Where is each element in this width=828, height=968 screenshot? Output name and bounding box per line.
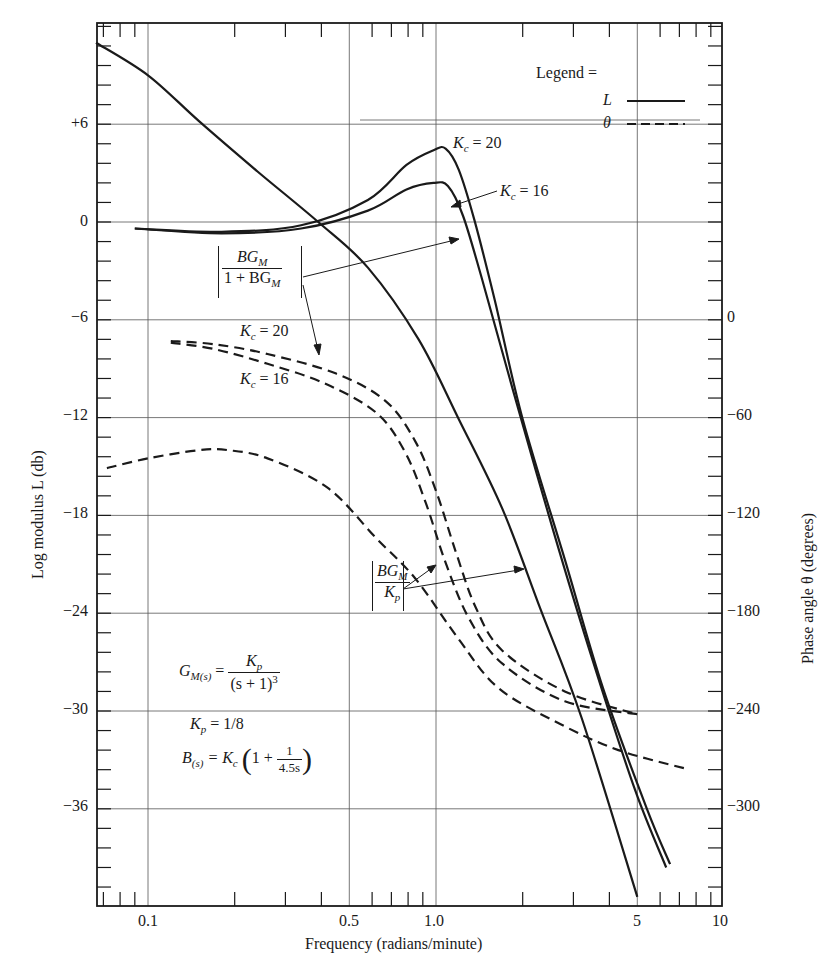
- y-tick-label: −24: [48, 602, 88, 620]
- y2-tick-label: −300: [727, 797, 760, 815]
- closed-num: BG: [237, 248, 258, 265]
- y2-tick-label: −240: [727, 700, 760, 718]
- eq1-equals: =: [215, 662, 224, 679]
- legend-label-L: L: [603, 91, 612, 109]
- eq3-paren-close: ): [302, 742, 312, 775]
- y-tick-label: 0: [48, 212, 88, 230]
- annotation-kc16-peak: Kc = 16: [500, 182, 549, 202]
- kc-symbol: K: [500, 182, 511, 199]
- eq2-rhs: = 1/8: [210, 715, 243, 732]
- eq2-lhs-sub: p: [201, 723, 207, 735]
- y2-tick-label: −60: [727, 406, 752, 424]
- annotation-kc20-peak: Kc = 20: [453, 134, 502, 154]
- y-tick-label: −12: [48, 406, 88, 424]
- closed-loop-label: BGM 1 + BGM: [222, 248, 298, 289]
- kc-symbol: K: [240, 322, 251, 339]
- kc-subscript: c: [251, 330, 256, 342]
- open-num: BG: [377, 562, 398, 579]
- eq1-num-sub: p: [257, 660, 263, 672]
- y-tick-label: −18: [48, 504, 88, 522]
- y-tick-label: −36: [48, 797, 88, 815]
- annotation-kc16-phase: Kc = 16: [240, 370, 289, 390]
- kc-subscript: c: [251, 378, 256, 390]
- eq3-frac-num: 1: [277, 743, 302, 760]
- legend-label-theta: θ: [603, 114, 611, 132]
- y2-tick-label: 0: [727, 308, 735, 326]
- equation-kp: Kp = 1/8: [190, 715, 244, 735]
- open-num-sub: M: [398, 570, 407, 582]
- closed-den: 1 + BG: [224, 269, 271, 286]
- open-den: K: [384, 583, 395, 600]
- y-axis-title: Log modulus L (db): [29, 439, 47, 579]
- eq3-paren-open: (: [242, 742, 252, 775]
- x-tick-label: 0.5: [339, 912, 359, 930]
- kc-subscript: c: [511, 190, 516, 202]
- y2-tick-label: −120: [727, 504, 760, 522]
- eq1-den: (s + 1): [230, 675, 272, 692]
- x-tick-label: 5: [633, 912, 641, 930]
- y2-tick-label: −180: [727, 602, 760, 620]
- equation-b: B(s) = Kc (1 + 1 4.5s ): [182, 742, 312, 776]
- open-loop-fraction: BGM Kp: [375, 562, 410, 603]
- eq1-lhs-sub: M(s): [191, 670, 212, 682]
- legend-title: Legend =: [536, 64, 597, 82]
- eq2-lhs: K: [190, 715, 201, 732]
- y-tick-label: −6: [48, 308, 88, 326]
- open-den-sub: p: [395, 591, 401, 603]
- closed-loop-fraction: BGM 1 + BGM: [222, 248, 282, 289]
- closed-num-sub: M: [258, 256, 267, 268]
- x-tick-label: 0.1: [138, 912, 158, 930]
- closed-den-sub: M: [271, 277, 280, 289]
- eq1-lhs: G: [179, 662, 191, 679]
- y-tick-label: +6: [48, 114, 88, 132]
- kc20-value: = 20: [260, 322, 289, 339]
- kc20-value: = 20: [473, 134, 502, 151]
- eq3-lhs-sub: (s): [192, 757, 204, 769]
- bode-plot: [0, 0, 828, 968]
- x-axis-title: Frequency (radians/minute): [305, 935, 482, 953]
- open-loop-label: BGM Kp: [375, 562, 401, 603]
- eq1-num: K: [246, 652, 257, 669]
- kc-subscript: c: [464, 142, 469, 154]
- eq3-frac-den: 4.5s: [277, 760, 302, 776]
- x-tick-label: 10: [712, 912, 728, 930]
- eq3-fraction: 1 4.5s: [277, 743, 302, 776]
- eq3-mid-sub: c: [233, 757, 238, 769]
- log-modulus-curve: [96, 43, 637, 897]
- annotation-kc20-phase: Kc = 20: [240, 322, 289, 342]
- eq3-lhs: B: [182, 749, 192, 766]
- eq3-one: 1 +: [252, 749, 273, 766]
- kc-symbol: K: [240, 370, 251, 387]
- kc16-value: = 16: [520, 182, 549, 199]
- eq3-mid: = K: [207, 749, 232, 766]
- y2-axis-title: Phase angle θ (degrees): [799, 464, 817, 664]
- eq1-den-sup: 3: [272, 673, 278, 685]
- y-tick-label: −30: [48, 700, 88, 718]
- kc16-value: = 16: [260, 370, 289, 387]
- equation-gm: GM(s) = Kp (s + 1)3: [175, 652, 284, 693]
- annotation-arrows: [303, 191, 524, 589]
- eq1-fraction: Kp (s + 1)3: [228, 652, 279, 693]
- x-tick-label: 1.0: [424, 912, 444, 930]
- kc-symbol: K: [453, 134, 464, 151]
